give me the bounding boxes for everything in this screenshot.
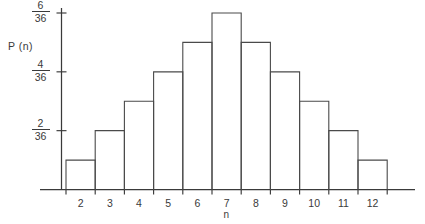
x-axis-label: n [224,210,230,220]
fraction-denominator: 36 [28,130,54,142]
x-tick-label-7: 7 [215,197,239,209]
bar-n-3 [95,131,124,190]
x-tick-label-3: 3 [98,197,122,209]
x-tick-label-6: 6 [185,197,209,209]
bar-n-10 [300,101,329,189]
x-tick-label-5: 5 [156,197,180,209]
fraction-numerator: 2 [28,118,54,129]
x-tick-label-11: 11 [331,197,355,209]
y-axis-label: P (n) [8,41,33,52]
bar-n-2 [66,160,95,189]
bar-n-6 [183,42,212,189]
bar-n-7 [212,13,241,190]
x-tick-label-4: 4 [127,197,151,209]
bar-n-9 [270,72,299,190]
chart-plot-area [0,0,425,224]
bar-n-5 [154,72,183,190]
y-tick-label-6-over-36: 636 [28,0,54,24]
fraction-denominator: 36 [28,12,54,24]
bar-n-8 [241,42,270,189]
x-tick-label-8: 8 [244,197,268,209]
bar-n-11 [329,131,358,190]
bar-n-4 [124,101,153,189]
bar-group [66,13,387,190]
fraction-numerator: 4 [28,59,54,70]
y-tick-label-4-over-36: 436 [28,59,54,83]
fraction-numerator: 6 [28,0,54,11]
x-tick-label-2: 2 [69,197,93,209]
fraction-denominator: 36 [28,71,54,83]
y-tick-label-2-over-36: 236 [28,118,54,142]
x-tick-label-10: 10 [302,197,326,209]
x-tick-label-12: 12 [361,197,385,209]
axes-group [40,8,415,195]
bar-n-12 [358,160,387,189]
x-axis-ticks [66,190,387,195]
x-tick-label-9: 9 [273,197,297,209]
probability-histogram-figure: 236436636 P (n) 23456789101112 n [0,0,425,224]
